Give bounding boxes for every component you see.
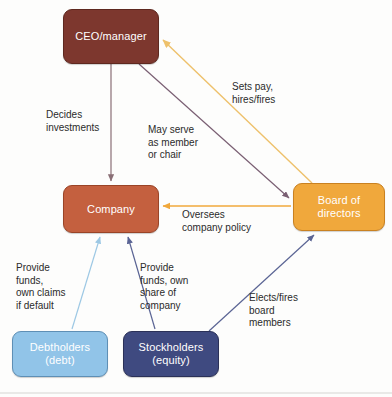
edge-label-elects-fires-board: Elects/fires board members	[249, 292, 298, 330]
scan-edge-artifact	[0, 392, 392, 394]
governance-diagram: CEO/manager Company Board of directors D…	[0, 0, 392, 397]
node-board-text: Board of directors	[313, 194, 364, 220]
node-stockholders-label: Stockholders	[135, 341, 208, 354]
edge-provide-funds-debt	[72, 237, 100, 329]
node-company-label: Company	[83, 203, 139, 216]
node-debtholders-text: Debtholders (debt)	[26, 341, 94, 367]
edge-label-provide-funds-equity: Provide funds, own share of company	[140, 262, 188, 312]
edge-label-may-serve: May serve as member or chair	[148, 124, 198, 162]
node-board-of-directors[interactable]: Board of directors	[293, 183, 385, 231]
node-board-label: Board of	[313, 194, 364, 207]
node-stockholders-text: Stockholders (equity)	[135, 341, 208, 367]
node-ceo-manager-label: CEO/manager	[71, 30, 150, 43]
node-board-sublabel: directors	[313, 207, 364, 220]
edge-label-sets-pay: Sets pay, hires/fires	[232, 81, 275, 106]
node-debtholders[interactable]: Debtholders (debt)	[12, 331, 108, 377]
edge-label-oversees-company-policy: Oversees company policy	[182, 209, 251, 234]
node-ceo-manager[interactable]: CEO/manager	[63, 9, 159, 64]
edge-sets-pay	[163, 40, 312, 183]
node-debtholders-label: Debtholders	[26, 341, 94, 354]
edge-label-provide-funds-debt: Provide funds, own claims if default	[16, 262, 65, 312]
edge-label-decides-investments: Decides investments	[46, 109, 99, 134]
node-debtholders-sublabel: (debt)	[26, 354, 94, 367]
node-stockholders-sublabel: (equity)	[135, 354, 208, 367]
node-stockholders[interactable]: Stockholders (equity)	[123, 331, 219, 377]
node-company[interactable]: Company	[63, 185, 159, 233]
